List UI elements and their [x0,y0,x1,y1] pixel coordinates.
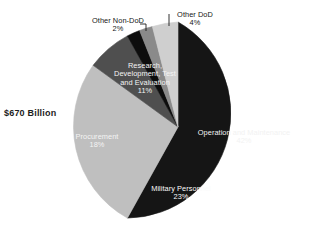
chart-total-label: $670 Billion [4,108,70,119]
pie-slices [74,22,231,218]
pie-chart-figure: $670 Billion Operation and Maintenance 4… [0,0,311,246]
pie-chart-canvas [0,0,311,246]
